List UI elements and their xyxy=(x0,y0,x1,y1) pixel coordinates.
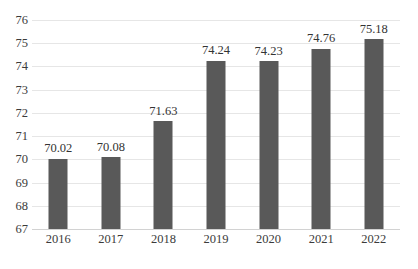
axis-baseline xyxy=(32,229,400,230)
y-axis-tick-label: 68 xyxy=(2,200,28,213)
bar[interactable] xyxy=(259,61,278,229)
x-axis-tick-label: 2019 xyxy=(204,233,229,246)
bar-value-label: 70.02 xyxy=(44,142,72,155)
bar-value-label: 75.18 xyxy=(360,23,388,36)
y-axis-tick-label: 67 xyxy=(2,223,28,236)
bar-value-label: 74.24 xyxy=(202,44,230,57)
y-axis-tick-label: 71 xyxy=(2,130,28,143)
y-axis: 76757473727170696867 xyxy=(0,20,28,229)
x-axis-tick-label: 2021 xyxy=(309,233,334,246)
bar-slot: 74.23 xyxy=(242,20,295,229)
x-axis: 2016201720182019202020212022 xyxy=(32,233,400,253)
x-axis-tick-label: 2016 xyxy=(46,233,71,246)
y-axis-tick-label: 74 xyxy=(2,60,28,73)
bar-slot: 75.18 xyxy=(347,20,400,229)
bar[interactable] xyxy=(364,39,383,229)
plot-area: 70.0270.0871.6374.2474.2374.7675.18 xyxy=(32,20,400,229)
bar-slot: 70.02 xyxy=(32,20,85,229)
bar[interactable] xyxy=(154,121,173,229)
bar-value-label: 70.08 xyxy=(97,141,125,154)
x-axis-tick-label: 2018 xyxy=(151,233,176,246)
y-axis-tick-label: 76 xyxy=(2,14,28,27)
x-axis-tick-label: 2017 xyxy=(98,233,123,246)
y-axis-tick-label: 70 xyxy=(2,153,28,166)
y-axis-tick-label: 75 xyxy=(2,37,28,50)
y-axis-tick-label: 72 xyxy=(2,107,28,120)
bar[interactable] xyxy=(49,159,68,229)
bar-chart: 76757473727170696867 70.0270.0871.6374.2… xyxy=(0,0,418,269)
x-axis-tick-label: 2020 xyxy=(256,233,281,246)
bar[interactable] xyxy=(101,157,120,229)
bar[interactable] xyxy=(206,61,225,229)
bar[interactable] xyxy=(312,49,331,229)
bar-value-label: 74.23 xyxy=(255,45,283,58)
x-axis-tick-label: 2022 xyxy=(361,233,386,246)
bar-slot: 71.63 xyxy=(137,20,190,229)
bar-slot: 74.76 xyxy=(295,20,348,229)
bar-slot: 70.08 xyxy=(85,20,138,229)
bar-value-label: 71.63 xyxy=(149,105,177,118)
y-axis-tick-label: 73 xyxy=(2,83,28,96)
bar-value-label: 74.76 xyxy=(307,32,335,45)
bar-slot: 74.24 xyxy=(190,20,243,229)
y-axis-tick-label: 69 xyxy=(2,176,28,189)
